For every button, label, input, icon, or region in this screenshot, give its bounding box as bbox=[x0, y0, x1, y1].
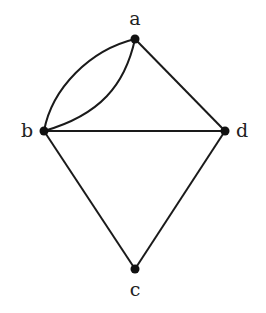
edge-a-d bbox=[135, 39, 225, 131]
edge-b-c bbox=[44, 131, 135, 269]
node-c bbox=[131, 265, 140, 274]
node-a bbox=[131, 35, 140, 44]
node-d bbox=[221, 127, 230, 136]
label-d: d bbox=[236, 119, 248, 141]
label-c: c bbox=[130, 278, 141, 300]
edge-a-b-inner bbox=[44, 39, 135, 131]
graph-diagram: a b c d bbox=[0, 0, 266, 313]
label-a: a bbox=[129, 7, 140, 29]
edge-a-b-outer bbox=[44, 39, 135, 131]
label-b: b bbox=[21, 119, 33, 141]
node-b bbox=[40, 127, 49, 136]
edge-d-c bbox=[135, 131, 225, 269]
